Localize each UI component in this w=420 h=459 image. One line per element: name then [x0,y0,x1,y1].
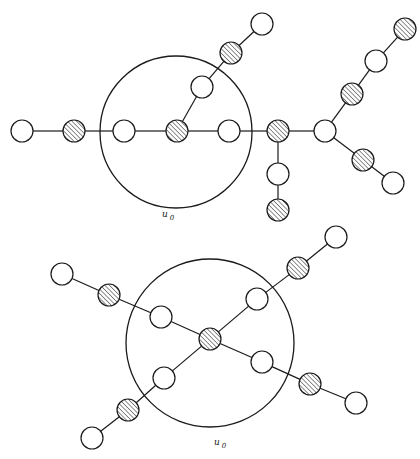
hatched-node [98,284,120,306]
graph-edge [239,32,254,46]
open-node [246,288,268,310]
open-node [11,120,33,142]
region-label: u0 [214,437,227,450]
graph-edge [172,346,201,371]
hatched-node [166,120,188,142]
graph-edge [218,306,248,332]
graph-edge [331,103,345,122]
open-node [382,172,404,194]
graph-edge [334,138,355,154]
hatched-node [220,42,242,64]
graph-edge [171,322,200,335]
open-node [150,306,172,328]
open-node [113,120,135,142]
graph-edge [307,244,328,261]
hatched-node [267,199,289,221]
graph-edge [72,278,99,290]
hatched-node [394,18,416,40]
open-node [267,163,289,185]
hatched-node [341,83,363,105]
open-node [153,367,175,389]
open-node [365,50,387,72]
region-label: u0 [162,209,175,222]
graph-edge [372,167,385,177]
open-node [314,120,336,142]
hatched-node [352,149,374,171]
open-node [251,351,273,373]
graph-edge [182,97,196,122]
graph-edge [358,70,369,85]
open-node [325,226,347,248]
hatched-node [299,373,321,395]
open-node [345,392,367,414]
hatched-node [267,120,289,142]
open-node [81,427,103,449]
hatched-node [117,399,139,421]
hatched-node [287,257,309,279]
diagram-bottom: u0 [51,226,367,450]
diagram-top: u0 [11,13,416,222]
open-node [51,263,73,285]
hatched-node [63,120,85,142]
graph-diagram-canvas: u0 u0 [0,0,420,459]
open-node [218,120,240,142]
graph-edge [220,343,252,357]
graph-edge [119,299,151,312]
graph-edge [383,37,397,53]
hatched-node [199,328,221,350]
open-node [251,13,273,35]
graph-edge [101,417,120,431]
graph-edge [209,61,224,78]
graph-edge [320,388,346,399]
open-node [191,76,213,98]
